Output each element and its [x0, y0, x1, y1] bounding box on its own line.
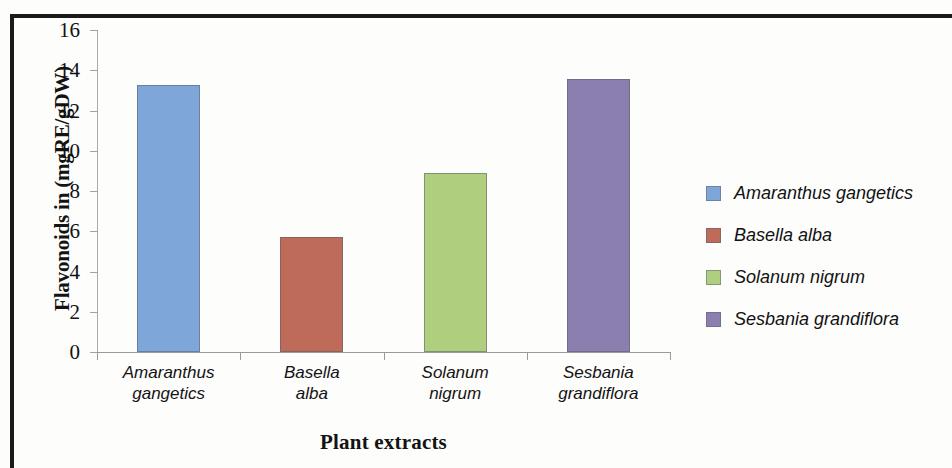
- legend-swatch-icon: [706, 186, 721, 201]
- chart-legend: Amaranthus gangeticsBasella albaSolanum …: [706, 172, 950, 340]
- x-axis-tick: [527, 352, 528, 360]
- x-axis-tick-label: Amaranthusgangetics: [97, 362, 240, 404]
- x-axis-tick: [240, 352, 241, 360]
- figure-canvas: Flavonoids in (mgRE/gDW) 1614121086420 A…: [0, 0, 952, 468]
- x-axis-tick: [670, 352, 671, 360]
- legend-item: Sesbania grandiflora: [706, 298, 950, 340]
- y-axis-tick-label: 2: [70, 301, 81, 322]
- legend-swatch-icon: [706, 312, 721, 327]
- y-axis-tick-label: 6: [70, 221, 81, 242]
- y-axis-tick-label: 12: [59, 100, 80, 121]
- legend-item: Basella alba: [706, 214, 950, 256]
- x-axis-tick-label: Basellaalba: [240, 362, 383, 404]
- y-axis-tick-label: 16: [59, 20, 80, 41]
- bar: [567, 79, 630, 352]
- y-axis-tick-label: 4: [70, 261, 81, 282]
- x-axis-tick-label-line: Solanum: [384, 362, 527, 383]
- legend-item-label: Sesbania grandiflora: [734, 309, 899, 330]
- bar-series: [97, 30, 670, 352]
- y-axis-tick-labels: 1614121086420: [28, 18, 80, 366]
- legend-item: Solanum nigrum: [706, 256, 950, 298]
- x-axis-tick-label-line: grandiflora: [527, 383, 670, 404]
- plot-area: Flavonoids in (mgRE/gDW) 1614121086420 A…: [0, 0, 700, 468]
- x-axis-title: Plant extracts: [97, 430, 670, 455]
- x-axis-tick-label-line: Amaranthus: [97, 362, 240, 383]
- x-axis-tick-labels: AmaranthusgangeticsBasellaalbaSolanumnig…: [97, 362, 670, 420]
- y-axis-tick-label: 10: [59, 140, 80, 161]
- legend-item-label: Solanum nigrum: [734, 267, 865, 288]
- legend-item-label: Amaranthus gangetics: [734, 183, 913, 204]
- legend-swatch-icon: [706, 270, 721, 285]
- legend-swatch-icon: [706, 228, 721, 243]
- bar: [424, 173, 487, 352]
- y-axis-tick-label: 8: [70, 181, 81, 202]
- x-axis-tick-label-line: gangetics: [97, 383, 240, 404]
- x-axis-tick-label: Sesbaniagrandiflora: [527, 362, 670, 404]
- x-axis-tick-label-line: alba: [240, 383, 383, 404]
- x-axis-tick-label: Solanumnigrum: [384, 362, 527, 404]
- x-axis-tick-label-line: Basella: [240, 362, 383, 383]
- legend-item: Amaranthus gangetics: [706, 172, 950, 214]
- y-axis-tick-label: 14: [59, 60, 80, 81]
- legend-item-label: Basella alba: [734, 225, 832, 246]
- x-axis-tick: [384, 352, 385, 360]
- x-axis-tick: [97, 352, 98, 360]
- x-axis-tick-label-line: Sesbania: [527, 362, 670, 383]
- y-axis-tick-label: 0: [70, 342, 81, 363]
- bar: [280, 237, 343, 352]
- bar: [137, 85, 200, 352]
- x-axis-tick-label-line: nigrum: [384, 383, 527, 404]
